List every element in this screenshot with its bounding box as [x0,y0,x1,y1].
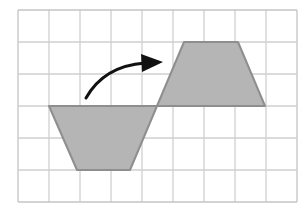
rotation-arrow-icon [86,54,163,98]
original-trapezoid [49,106,157,170]
grid-canvas [0,0,307,206]
arrow-head [141,54,163,72]
rotation-diagram [0,0,307,206]
arrow-curve [86,63,145,98]
